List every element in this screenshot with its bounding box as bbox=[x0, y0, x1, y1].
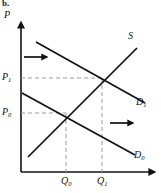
demand-curve-1-label-sub: 1 bbox=[143, 101, 146, 108]
demand-curve-0-label: D0 bbox=[134, 150, 144, 160]
price-tick-p1: P1 bbox=[2, 72, 11, 82]
supply-curve-label: S bbox=[128, 31, 133, 41]
price-tick-p1-sub: 1 bbox=[8, 76, 11, 83]
supply-curve-label-base: S bbox=[128, 30, 133, 41]
quantity-tick-q1: Q1 bbox=[97, 176, 107, 186]
y-axis-label: P bbox=[4, 10, 10, 20]
quantity-tick-q1-sub: 1 bbox=[104, 180, 107, 187]
supply-curve bbox=[28, 48, 137, 157]
quantity-tick-q0-sub: 0 bbox=[68, 180, 71, 187]
quantity-tick-q0: Q0 bbox=[61, 176, 71, 186]
demand-curve-1-label: D1 bbox=[136, 97, 146, 107]
demand-curve-0-label-sub: 0 bbox=[141, 154, 144, 161]
figure-panel: b. P P1 P0 bbox=[0, 0, 161, 193]
price-tick-p0-sub: 0 bbox=[8, 111, 11, 118]
price-tick-p0: P0 bbox=[2, 107, 11, 117]
